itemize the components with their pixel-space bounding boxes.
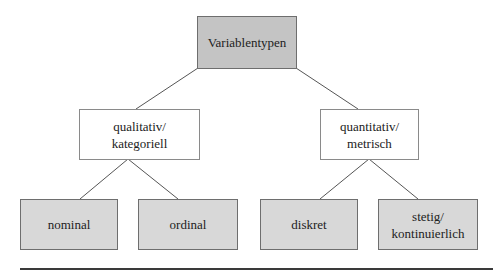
connector-root-quantitativ — [296, 68, 358, 109]
connector-qualitativ-ordinal — [128, 159, 178, 199]
node-diskret: diskret — [260, 199, 358, 250]
node-label: diskret — [291, 216, 326, 233]
connector-quantitativ-diskret — [320, 159, 369, 199]
node-label: ordinal — [170, 216, 207, 233]
connector-qualitativ-nominal — [80, 159, 128, 199]
node-stetig-kontinuierlich: stetig/ kontinuierlich — [378, 199, 478, 250]
node-ordinal: ordinal — [138, 199, 238, 250]
node-label: quantitativ/ metrisch — [340, 118, 399, 152]
node-label: nominal — [48, 216, 91, 233]
node-label: qualitativ/ kategoriell — [112, 118, 168, 152]
node-nominal: nominal — [20, 199, 118, 250]
node-qualitativ-kategoriell: qualitativ/ kategoriell — [79, 109, 200, 160]
connector-root-qualitativ — [136, 68, 198, 109]
node-label: stetig/ kontinuierlich — [392, 208, 465, 242]
node-label: Variablentypen — [208, 34, 287, 51]
node-variablentypen: Variablentypen — [197, 16, 297, 69]
node-quantitativ-metrisch: quantitativ/ metrisch — [320, 109, 419, 160]
connector-quantitativ-stetig — [369, 159, 418, 199]
